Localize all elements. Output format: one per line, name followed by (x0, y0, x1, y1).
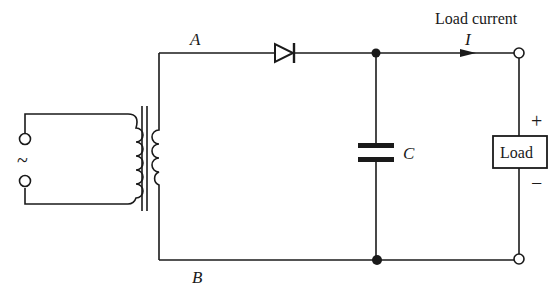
load-label: Load (500, 144, 533, 161)
transformer (128, 53, 159, 260)
primary-circuit: ~ (17, 114, 128, 204)
bottom-rail (159, 254, 524, 265)
load-current-caption: Load current (435, 10, 518, 27)
current-arrow-icon (460, 49, 476, 57)
capacitor (358, 53, 394, 260)
ac-source-symbol: ~ (17, 149, 28, 171)
output-terminal-bottom (514, 254, 524, 264)
ac-terminal-top (20, 134, 31, 145)
primary-coil (128, 114, 143, 204)
load: Load + − (493, 58, 547, 254)
diode (275, 43, 294, 63)
rectifier-circuit-diagram: ~ Load + − (0, 0, 557, 297)
minus-sign: − (531, 172, 542, 194)
current-symbol-label: I (464, 30, 472, 49)
ac-terminal-bottom (20, 176, 31, 187)
capacitor-label: C (403, 144, 415, 163)
node-a-label: A (189, 30, 201, 49)
plus-sign: + (531, 110, 542, 132)
junction-bottom (372, 255, 382, 265)
node-b-label: B (192, 268, 203, 287)
output-terminal-top (514, 48, 524, 58)
secondary-coil (152, 53, 159, 260)
